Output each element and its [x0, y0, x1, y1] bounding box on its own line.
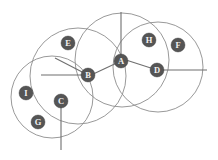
node-b[interactable]: B — [81, 68, 95, 82]
node-disc-g[interactable] — [31, 115, 45, 129]
node-h[interactable]: H — [142, 33, 156, 47]
node-disc-h[interactable] — [142, 33, 156, 47]
node-disc-i[interactable] — [19, 86, 33, 100]
diagram-canvas: ABCDEFGHI — [0, 0, 218, 160]
node-i[interactable]: I — [19, 86, 33, 100]
node-disc-b[interactable] — [81, 68, 95, 82]
node-e[interactable]: E — [61, 36, 75, 50]
spokes-layer — [41, 12, 207, 150]
node-disc-f[interactable] — [171, 38, 185, 52]
node-disc-a[interactable] — [114, 54, 128, 68]
node-a[interactable]: A — [114, 54, 128, 68]
node-disc-c[interactable] — [54, 94, 68, 108]
node-c[interactable]: C — [54, 94, 68, 108]
node-disc-e[interactable] — [61, 36, 75, 50]
overlapping-circles-diagram: ABCDEFGHI — [0, 0, 218, 160]
nodes-layer: ABCDEFGHI — [19, 33, 185, 129]
node-disc-d[interactable] — [150, 63, 164, 77]
node-g[interactable]: G — [31, 115, 45, 129]
node-f[interactable]: F — [171, 38, 185, 52]
node-d[interactable]: D — [150, 63, 164, 77]
